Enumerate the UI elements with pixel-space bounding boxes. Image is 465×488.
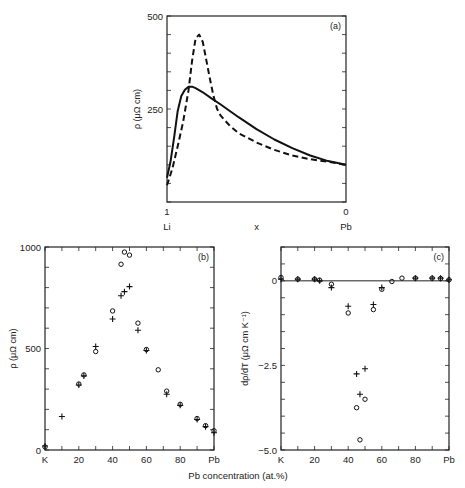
x-axis-end-label: Pb (340, 221, 352, 232)
x-tick-label: 60 (377, 454, 388, 465)
circle-marker (346, 311, 350, 315)
y-tick-label: 500 (147, 11, 163, 22)
circle-marker (127, 253, 131, 257)
cross-marker (429, 275, 435, 281)
cross-marker (357, 391, 363, 397)
circle-marker (94, 349, 98, 353)
panel-label: (b) (198, 252, 209, 262)
dashed-curve (167, 35, 346, 186)
panel-label: (a) (330, 21, 341, 31)
cross-marker (121, 289, 127, 295)
y-tick-label: 0 (36, 445, 41, 456)
cross-marker (135, 327, 141, 333)
x-tick-label: K (42, 454, 49, 465)
panel-a-chart: 2505001Li0Pbxρ (μΩ cm)(a) (132, 11, 352, 233)
x-tick-label: 60 (141, 454, 152, 465)
y-axis-label: ρ (μΩ cm) (8, 328, 18, 368)
x-tick-label: 40 (107, 454, 118, 465)
circle-marker (136, 321, 140, 325)
y-tick-label: −5.0 (258, 445, 277, 456)
x-tick-label: 0 (343, 206, 348, 217)
x-tick-label: Pb (443, 454, 455, 465)
y-tick-label: 500 (25, 343, 41, 354)
circle-marker (390, 279, 394, 283)
circle-marker (110, 309, 114, 313)
x-tick-label: Pb (208, 454, 220, 465)
circle-marker (371, 307, 375, 311)
circle-marker (363, 397, 367, 401)
cross-marker (93, 343, 99, 349)
cross-marker (110, 316, 116, 322)
x-axis-label: x (254, 221, 259, 232)
x-tick-label: K (278, 454, 285, 465)
cross-marker (370, 302, 376, 308)
circle-marker (400, 276, 404, 280)
circle-marker (122, 250, 126, 254)
y-tick-label: 250 (147, 104, 163, 115)
circle-marker (354, 406, 358, 410)
x-tick-label: 80 (410, 454, 421, 465)
plot-frame (45, 247, 214, 450)
y-axis-label: dρ/dT (μΩ cm K⁻¹) (240, 311, 250, 385)
cross-marker (127, 284, 133, 290)
panel-c-chart: 0−2.5−5.0K20406080Pbdρ/dT (μΩ cm K⁻¹)(c) (240, 247, 455, 465)
solid-curve (167, 87, 346, 178)
cross-marker (438, 275, 444, 281)
x-axis-end-label: Li (163, 221, 170, 232)
x-tick-label: 40 (343, 454, 354, 465)
cross-marker (59, 414, 65, 420)
y-tick-label: 0 (272, 275, 277, 286)
panel-b-chart: 05001000K20406080Pbρ (μΩ cm)(b) (8, 242, 220, 466)
figure: 2505001Li0Pbxρ (μΩ cm)(a) 05001000K20406… (0, 0, 465, 488)
cross-marker (362, 366, 368, 372)
x-tick-label: 20 (74, 454, 85, 465)
y-axis-label: ρ (μΩ cm) (132, 89, 142, 129)
x-tick-label: 80 (175, 454, 186, 465)
cross-marker (345, 303, 351, 309)
cross-marker (118, 293, 124, 299)
circle-marker (156, 368, 160, 372)
y-tick-label: −2.5 (258, 360, 277, 371)
circle-marker (358, 438, 362, 442)
plot-frame (281, 247, 449, 450)
circle-marker (119, 262, 123, 266)
cross-marker (354, 371, 360, 377)
cross-marker (446, 277, 452, 283)
x-tick-label: 1 (164, 206, 169, 217)
x-tick-label: 20 (309, 454, 320, 465)
panel-label: (c) (434, 252, 445, 262)
cross-marker (412, 275, 418, 281)
y-tick-label: 1000 (20, 242, 41, 253)
shared-x-axis-label: Pb concentration (at.%) (188, 470, 287, 481)
